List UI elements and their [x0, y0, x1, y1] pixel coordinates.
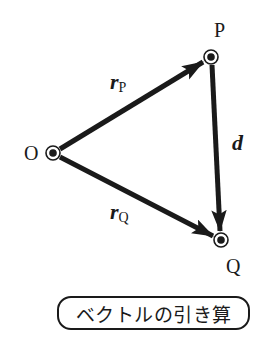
caption-text: ベクトルの引き算	[76, 300, 232, 327]
vector-r-p-arrow	[60, 62, 203, 149]
caption-box: ベクトルの引き算	[57, 296, 250, 330]
point-o-label: O	[24, 142, 38, 164]
vector-r-p-subscript: P	[119, 80, 127, 95]
point-q-marker	[214, 233, 228, 247]
vector-r-q-label: rQ	[110, 199, 129, 225]
point-p-marker	[204, 50, 218, 64]
vector-d-label: d	[232, 130, 244, 155]
vector-r-q-arrow	[60, 157, 213, 236]
vector-r-q-subscript: Q	[119, 210, 129, 225]
point-p-label: P	[214, 19, 225, 41]
point-o-marker	[46, 146, 60, 160]
point-q-label: Q	[226, 255, 241, 277]
vector-d-arrow	[212, 65, 220, 231]
vector-r-p-label: rP	[110, 69, 127, 95]
